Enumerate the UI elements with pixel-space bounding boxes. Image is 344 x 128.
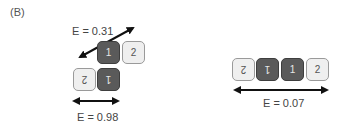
energy-label-diagonal: E = 0.31 <box>72 25 113 37</box>
monomer-1-top: 1 <box>97 41 120 64</box>
monomer-1-right: 1 <box>281 58 304 81</box>
energy-label-right-horizontal: E = 0.07 <box>263 97 304 109</box>
energy-label-left-horizontal: E = 0.98 <box>77 111 118 123</box>
monomer-2-right: 2 <box>306 58 329 81</box>
monomer-2-bottom-rotated: 2 <box>73 68 96 91</box>
monomer-1-bottom-rotated: 1 <box>97 68 120 91</box>
diagram-stage: (B) E = 0.31 1 2 2 1 E = 0.98 2 1 1 2 E … <box>0 0 344 128</box>
monomer-2-left-rotated: 2 <box>232 58 255 81</box>
monomer-2-top: 2 <box>122 41 145 64</box>
monomer-1-left-rotated: 1 <box>256 58 279 81</box>
